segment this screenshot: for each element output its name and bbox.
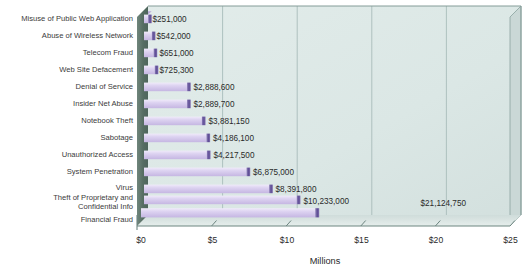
bar-body [144, 151, 207, 160]
category-labels: Misuse of Public Web Application Abuse o… [21, 14, 134, 224]
bar-body [144, 100, 187, 109]
bar-endcap [297, 196, 301, 205]
bar-system-penetration[interactable] [144, 168, 250, 177]
x-axis-title: Millions [310, 256, 341, 266]
category-label-theft-of-proprietary-line2: Confidential Info [78, 202, 133, 211]
value-label: $21,124,750 [421, 199, 467, 208]
bar-financial-fraud[interactable] [141, 208, 319, 217]
value-label: $2,888,600 [194, 83, 235, 92]
bar-endcap [187, 100, 191, 109]
bar-body [144, 134, 207, 143]
x-tick-label-0: $0 [136, 235, 146, 245]
bar-endcap [152, 32, 156, 41]
value-label: $8,391,800 [276, 185, 317, 194]
bar-endcap [148, 15, 152, 24]
chart-canvas: $251,000 $542,000 $651,000 $725,300 $2,8… [0, 0, 530, 274]
x-tick-label-5: $5 [208, 235, 218, 245]
value-label: $2,889,700 [194, 100, 235, 109]
bar-theft-of-proprietary-and-confidential-info[interactable] [144, 196, 300, 205]
value-label: $10,233,000 [304, 197, 350, 206]
bar-body [144, 83, 187, 92]
category-label-insider-net-abuse: Insider Net Abuse [73, 99, 133, 108]
bar-body [144, 185, 269, 194]
category-label-virus: Virus [116, 183, 133, 192]
bar-web-site-defacement[interactable] [144, 66, 158, 75]
bar-endcap [207, 151, 211, 160]
value-label: $651,000 [160, 49, 195, 58]
bar-body [144, 49, 154, 58]
category-label-theft-of-proprietary-line1: Theft of Proprietary and [53, 193, 133, 202]
category-label-notebook-theft: Notebook Theft [81, 116, 134, 125]
x-tick-label-10: $10 [280, 235, 295, 245]
bar-body [144, 117, 202, 126]
bar-notebook-theft[interactable] [144, 117, 206, 126]
x-tick-label-20: $20 [429, 235, 444, 245]
bar-body [144, 196, 297, 205]
bar-endcap [315, 208, 319, 217]
value-label: $3,881,150 [209, 117, 250, 126]
bar-body [141, 208, 315, 217]
bar-endcap [187, 83, 191, 92]
value-label: $4,217,500 [214, 151, 255, 160]
bar-chart: $251,000 $542,000 $651,000 $725,300 $2,8… [0, 0, 530, 274]
value-label: $251,000 [153, 15, 188, 24]
bar-denial-of-service[interactable] [144, 83, 191, 92]
bar-endcap [269, 185, 273, 194]
bar-body [144, 66, 155, 75]
bar-endcap [247, 168, 251, 177]
category-label-system-penetration: System Penetration [67, 167, 133, 176]
value-label: $4,186,100 [213, 134, 254, 143]
bar-endcap [154, 49, 158, 58]
category-label-unauthorized-access: Unauthorized Access [62, 150, 134, 159]
bar-unauthorized-access[interactable] [144, 151, 211, 160]
x-tick-label-25: $25 [503, 235, 518, 245]
plot-back-wall [148, 6, 521, 215]
category-label-misuse-of-public-web-application: Misuse of Public Web Application [21, 14, 133, 23]
bar-telecom-fraud[interactable] [144, 49, 157, 58]
category-label-telecom-fraud: Telecom Fraud [83, 48, 133, 57]
bar-body [144, 32, 152, 41]
bar-endcap [207, 134, 211, 143]
category-label-abuse-of-wireless-network: Abuse of Wireless Network [42, 31, 133, 40]
bar-sabotage[interactable] [144, 134, 210, 143]
bar-insider-net-abuse[interactable] [144, 100, 191, 109]
plot-right-side-panel [510, 6, 521, 226]
category-label-denial-of-service: Denial of Service [76, 82, 133, 91]
value-label: $6,875,000 [253, 168, 294, 177]
category-label-web-site-defacement: Web Site Defacement [59, 65, 134, 74]
value-label: $542,000 [157, 32, 192, 41]
bar-abuse-of-wireless-network[interactable] [144, 32, 155, 41]
x-tick-label-15: $15 [354, 235, 369, 245]
bar-body [144, 168, 247, 177]
bar-endcap [202, 117, 206, 126]
value-label: $725,300 [160, 66, 195, 75]
category-label-sabotage: Sabotage [100, 133, 133, 142]
bar-virus[interactable] [144, 185, 273, 194]
category-label-financial-fraud: Financial Fraud [81, 215, 133, 224]
bar-body [144, 15, 148, 24]
bar-endcap [155, 66, 159, 75]
